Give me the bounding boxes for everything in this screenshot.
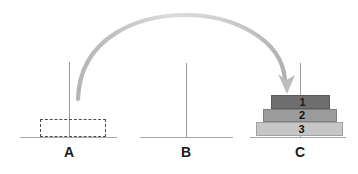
disk-2-label: 2: [299, 110, 305, 121]
disk-3-label: 3: [298, 124, 304, 135]
peg-base-a: [20, 137, 117, 138]
peg-label-c: C: [292, 144, 308, 160]
disk-1-label: 1: [299, 97, 305, 108]
move-arrow-arc: [78, 15, 285, 99]
disk-2: 2: [263, 109, 337, 122]
peg-base-b: [140, 137, 233, 138]
move-arrow-head-icon: [278, 74, 295, 94]
peg-label-a: A: [61, 144, 77, 160]
disk-1: 1: [271, 95, 330, 109]
disk-3: 3: [256, 122, 343, 136]
hanoi-diagram: A B 3 2 1 C: [0, 0, 358, 174]
peg-base-c: [250, 137, 346, 138]
ghost-disk-outline-a: [40, 119, 106, 137]
peg-rod-b: [186, 63, 187, 137]
peg-label-b: B: [178, 144, 194, 160]
